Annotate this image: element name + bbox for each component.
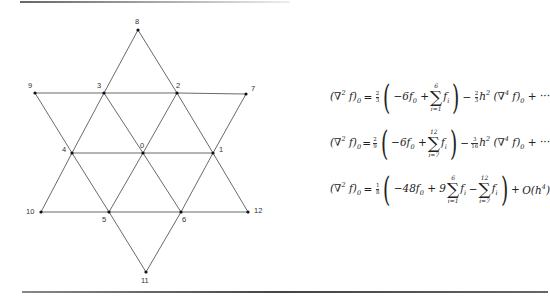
sum-lower: i=7 — [479, 197, 490, 204]
sum-lower: i=1 — [448, 197, 459, 204]
eq3-summation-2: 12 ∑ i=7 — [479, 174, 491, 204]
stencil-node-4 — [70, 151, 73, 154]
stencil-edge-2-7 — [177, 93, 246, 94]
eq2-lhs: (∇2 f)0 — [330, 135, 361, 151]
sigma-symbol: ∑ — [428, 135, 440, 151]
right-paren: ) — [450, 128, 457, 158]
eq2-tail-coefficient: 3 16 — [471, 137, 478, 149]
eq3-tail: O(h4) — [522, 183, 550, 196]
eq3-lhs: (∇2 f)0 — [330, 181, 361, 197]
node-label-5: 5 — [102, 215, 106, 224]
eq2-tail: h2 (∇4 f)0 + ··· — [479, 135, 550, 151]
left-paren: ( — [383, 174, 390, 204]
stencil-node-10 — [39, 210, 42, 213]
stencil-node-5 — [107, 210, 110, 213]
eq2-inner-lead: −6f0 + — [391, 136, 427, 151]
eq3-sum-term-2: fi — [492, 182, 498, 197]
stencil-edge-4-5 — [72, 153, 109, 212]
stencil-edge-11-5 — [109, 212, 146, 272]
node-label-10: 10 — [26, 207, 34, 216]
stencil-edge-0-5 — [109, 153, 143, 212]
node-label-4: 4 — [62, 145, 66, 154]
node-label-7: 7 — [251, 84, 255, 93]
right-paren: ) — [452, 82, 459, 112]
stencil-edge-1-2 — [177, 93, 213, 153]
equation-3: (∇2 f)0 = 1 8 ( −48f0 + 9 6 ∑ i=1 fi − 1… — [330, 166, 550, 212]
node-label-3: 3 — [97, 81, 101, 90]
eq1-coefficient: 2 3 — [376, 91, 380, 103]
node-label-6: 6 — [182, 215, 186, 224]
node-label-11: 11 — [141, 276, 149, 285]
equations-block: (∇2 f)0 = 2 3 ( −6f0 + 6 ∑ i=1 fi ) − 2 … — [330, 74, 550, 212]
eq1-tail: h2 (∇4 f)0 + ··· — [479, 89, 550, 105]
equation-2: (∇2 f)0 = 2 9 ( −6f0 + 12 ∑ i=7 fi ) − 3… — [330, 120, 550, 166]
eq3-sum-term-1: fi — [460, 182, 466, 197]
sigma-symbol: ∑ — [479, 181, 491, 197]
stencil-node-11 — [144, 270, 147, 273]
node-label-1: 1 — [219, 145, 223, 154]
hexagram-stencil-diagram: 0123456789101112 — [0, 0, 300, 301]
eq3-summation-1: 6 ∑ i=1 — [447, 174, 459, 204]
eq1-coef-den: 3 — [376, 98, 380, 104]
eq2-tail-den: 16 — [471, 144, 478, 150]
eq3-coefficient: 1 8 — [376, 183, 380, 195]
stencil-node-7 — [244, 92, 247, 95]
eq1-tail-coefficient: 2 3 — [475, 91, 479, 103]
bottom-rule — [22, 291, 548, 293]
sum-lower: i=1 — [431, 105, 442, 112]
right-paren: ) — [501, 174, 508, 204]
sigma-symbol: ∑ — [447, 181, 459, 197]
stencil-edge-1-12 — [213, 153, 248, 212]
eq2-summation: 12 ∑ i=7 — [428, 128, 440, 158]
eq1-summation: 6 ∑ i=1 — [430, 82, 442, 112]
stencil-edge-11-6 — [146, 212, 181, 272]
stencil-edge-10-4 — [41, 153, 72, 212]
stencil-edge-0-6 — [143, 153, 181, 212]
equation-1: (∇2 f)0 = 2 3 ( −6f0 + 6 ∑ i=1 fi ) − 2 … — [330, 74, 550, 120]
eq2-coef-den: 9 — [373, 144, 377, 150]
eq3-coef-den: 8 — [376, 190, 380, 196]
stencil-edge-1-7 — [213, 94, 246, 153]
eq2-coefficient: 2 9 — [373, 137, 377, 149]
sigma-symbol: ∑ — [430, 89, 442, 105]
eq1-lhs: (∇2 f)0 — [330, 89, 361, 105]
stencil-node-6 — [179, 210, 182, 213]
eq1-sum-term: fi — [443, 90, 449, 105]
stencil-node-2 — [175, 91, 178, 94]
stencil-edge-2-8 — [138, 30, 177, 93]
left-paren: ( — [383, 82, 390, 112]
eq2-sum-term: fi — [441, 136, 447, 151]
node-label-9: 9 — [28, 81, 32, 90]
stencil-node-0 — [141, 151, 144, 154]
node-label-8: 8 — [135, 17, 139, 26]
stencil-node-3 — [102, 91, 105, 94]
eq1-tail-den: 3 — [475, 98, 479, 104]
node-label-12: 12 — [254, 206, 262, 215]
stencil-edge-3-4 — [72, 93, 104, 153]
stencil-edge-3-8 — [104, 30, 138, 93]
node-label-2: 2 — [176, 81, 180, 90]
stencil-node-8 — [136, 28, 139, 31]
node-label-0: 0 — [140, 141, 144, 150]
sum-lower: i=7 — [428, 151, 439, 158]
left-paren: ( — [381, 128, 388, 158]
stencil-node-12 — [246, 210, 249, 213]
eq3-inner-lead: −48f0 + 9 — [394, 182, 446, 197]
stencil-edge-0-3 — [104, 93, 143, 153]
eq1-inner-lead: −6f0 + — [393, 90, 429, 105]
stencil-edge-1-6 — [181, 153, 213, 212]
stencil-node-9 — [33, 91, 36, 94]
stencil-edge-0-2 — [143, 93, 177, 153]
stencil-edge-4-9 — [35, 93, 72, 153]
stencil-node-1 — [211, 151, 214, 154]
